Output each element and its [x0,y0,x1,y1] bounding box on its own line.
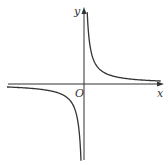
curve-branch-quadrant-i [87,12,161,81]
coordinate-plane: y x O [0,0,168,165]
x-axis-arrow-icon [157,82,164,87]
hyperbola-figure: y x O [0,0,168,165]
y-axis-label: y [73,5,81,18]
y-axis-arrow-icon [82,7,87,14]
origin-label: O [75,87,84,100]
x-axis-label: x [157,87,164,100]
curve-branch-quadrant-iii [7,87,81,161]
